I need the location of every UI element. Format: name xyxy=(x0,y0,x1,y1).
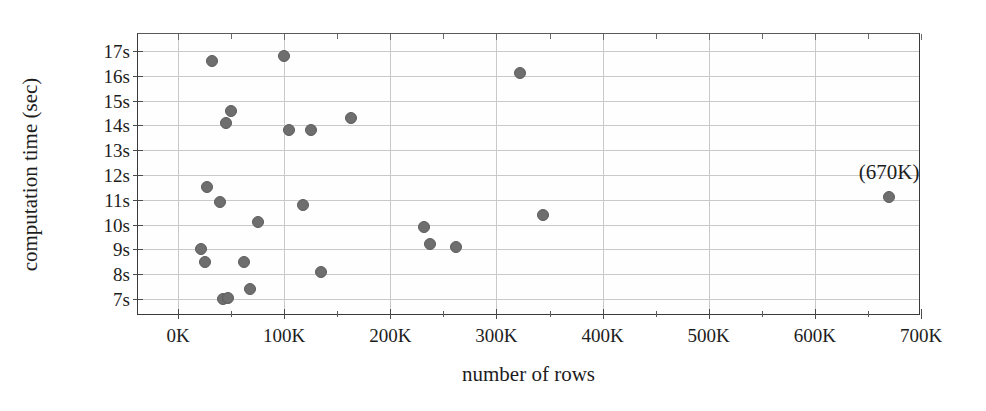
scatter-plot-figure: computation time (sec) 7s8s9s10s11s12s13… xyxy=(0,0,986,411)
data-point xyxy=(195,243,207,255)
y-axis-tick-label: 10s xyxy=(104,215,130,234)
y-axis-tick-label: 7s xyxy=(113,290,130,309)
gridline-horizontal xyxy=(138,101,919,102)
gridline-horizontal xyxy=(138,200,919,201)
gridline-horizontal xyxy=(138,125,919,126)
x-axis-minor-tick xyxy=(550,311,551,317)
x-axis-minor-tick xyxy=(656,311,657,317)
x-axis-tick-label: 600K xyxy=(794,326,836,345)
plot-area: 7s8s9s10s11s12s13s14s15s16s17s 0K100K200… xyxy=(137,33,920,315)
data-point xyxy=(537,209,549,221)
data-point xyxy=(315,266,327,278)
data-point xyxy=(424,238,436,250)
data-point xyxy=(514,67,526,79)
y-axis-tick-label: 14s xyxy=(104,116,130,135)
x-axis-tick-label: 100K xyxy=(263,326,305,345)
x-axis-minor-tick-top xyxy=(656,34,657,39)
gridline-vertical xyxy=(178,34,179,314)
x-axis-tick-label: 200K xyxy=(369,326,411,345)
y-axis-tick xyxy=(133,299,143,300)
y-axis-tick-label: 13s xyxy=(104,141,130,160)
y-axis-tick xyxy=(133,274,143,275)
y-axis-tick-label: 15s xyxy=(104,91,130,110)
gridline-vertical xyxy=(390,34,391,314)
y-axis-tick-label: 17s xyxy=(104,42,130,61)
gridline-horizontal xyxy=(138,175,919,176)
data-point xyxy=(278,50,290,62)
data-point xyxy=(222,292,234,304)
x-axis-tick-top xyxy=(284,34,285,40)
x-axis-tick-top xyxy=(921,34,922,40)
x-axis-minor-tick-top xyxy=(231,34,232,39)
x-axis-tick-label: 500K xyxy=(688,326,730,345)
y-axis-tick xyxy=(133,76,143,77)
gridline-vertical xyxy=(496,34,497,314)
data-point xyxy=(199,256,211,268)
x-axis-tick-top xyxy=(496,34,497,40)
data-point xyxy=(345,112,357,124)
data-point xyxy=(883,191,895,203)
data-point xyxy=(214,196,226,208)
x-axis-tick xyxy=(603,309,604,319)
y-axis-tick-label: 9s xyxy=(113,240,130,259)
data-point xyxy=(283,124,295,136)
x-axis-minor-tick-top xyxy=(337,34,338,39)
x-axis-tick xyxy=(921,309,922,319)
x-axis-tick-label: 300K xyxy=(475,326,517,345)
x-axis-minor-tick xyxy=(231,311,232,317)
y-axis-tick xyxy=(133,200,143,201)
gridline-vertical xyxy=(603,34,604,314)
y-axis-tick xyxy=(133,175,143,176)
y-axis-tick-label: 8s xyxy=(113,265,130,284)
y-axis-tick xyxy=(133,125,143,126)
data-point xyxy=(244,283,256,295)
gridline-horizontal xyxy=(138,150,919,151)
x-axis-tick xyxy=(284,309,285,319)
x-axis-minor-tick-top xyxy=(762,34,763,39)
x-axis-tick xyxy=(390,309,391,319)
y-axis-tick xyxy=(133,150,143,151)
x-axis-tick-label: 0K xyxy=(166,326,189,345)
x-axis-tick xyxy=(496,309,497,319)
gridline-vertical xyxy=(284,34,285,314)
gridline-horizontal xyxy=(138,299,919,300)
y-axis-tick xyxy=(133,225,143,226)
gridline-horizontal xyxy=(138,51,919,52)
gridline-horizontal xyxy=(138,249,919,250)
x-axis-tick xyxy=(178,309,179,319)
data-point xyxy=(297,199,309,211)
x-axis-tick-top xyxy=(178,34,179,40)
x-axis-minor-tick xyxy=(868,311,869,317)
gridline-vertical xyxy=(709,34,710,314)
x-axis-minor-tick-top xyxy=(443,34,444,39)
x-axis-minor-tick xyxy=(443,311,444,317)
x-axis-title: number of rows xyxy=(137,362,920,387)
x-axis-tick-label: 700K xyxy=(900,326,942,345)
gridline-horizontal xyxy=(138,76,919,77)
y-axis-tick xyxy=(133,249,143,250)
x-axis-tick-label: 400K xyxy=(581,326,623,345)
y-axis-tick-label: 16s xyxy=(104,66,130,85)
x-axis-minor-tick-top xyxy=(868,34,869,39)
x-axis-tick xyxy=(709,309,710,319)
data-point xyxy=(418,221,430,233)
data-point xyxy=(305,124,317,136)
gridline-horizontal xyxy=(138,274,919,275)
y-axis-title-text: computation time (sec) xyxy=(19,77,44,271)
y-axis-tick-label: 12s xyxy=(104,166,130,185)
point-annotation-label: (670K) xyxy=(859,162,920,183)
y-axis-tick xyxy=(133,51,143,52)
y-axis-title: computation time (sec) xyxy=(14,33,48,315)
data-point xyxy=(450,241,462,253)
data-point xyxy=(220,117,232,129)
x-axis-tick-top xyxy=(390,34,391,40)
x-axis-minor-tick xyxy=(337,311,338,317)
x-axis-minor-tick-top xyxy=(550,34,551,39)
data-point xyxy=(206,55,218,67)
data-point xyxy=(238,256,250,268)
x-axis-tick-top xyxy=(815,34,816,40)
data-point xyxy=(201,181,213,193)
y-axis-tick xyxy=(133,101,143,102)
data-point xyxy=(252,216,264,228)
x-axis-minor-tick xyxy=(762,311,763,317)
